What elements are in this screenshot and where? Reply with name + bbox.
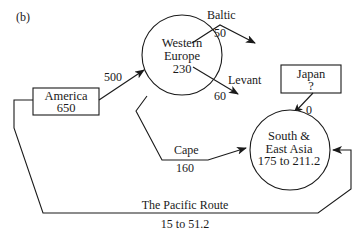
japan-node: Japan ?	[281, 65, 341, 93]
flow-pacific-name: The Pacific Route	[142, 198, 229, 212]
flow-baltic-value: 50	[214, 26, 226, 40]
south-east-asia-node: South & East Asia 175 to 211.2	[250, 110, 330, 190]
asia-name-1: South &	[268, 129, 310, 143]
flow-baltic-name: Baltic	[207, 8, 236, 22]
western-europe-value: 230	[173, 62, 192, 76]
flow-pacific-value: 15 to 51.2	[161, 217, 209, 231]
silver-flow-diagram: (b) America 650 500 Western Europe 230 B…	[0, 0, 361, 234]
western-europe-node: Western Europe 230	[142, 15, 222, 95]
america-node: America 650	[33, 88, 99, 115]
flow-cape-value: 160	[176, 161, 194, 175]
asia-value: 175 to 211.2	[258, 154, 320, 168]
western-europe-name-1: Western	[162, 36, 203, 50]
flow-america-europe-value: 500	[104, 70, 122, 84]
flow-cape-name: Cape	[174, 143, 199, 157]
japan-value: ?	[308, 79, 314, 93]
western-europe-name-2: Europe	[164, 49, 201, 63]
america-value: 650	[57, 101, 76, 115]
flow-levant-name: Levant	[228, 73, 262, 87]
flow-levant-value: 60	[214, 89, 226, 103]
flow-cape: Cape 160	[136, 96, 246, 175]
flow-america-europe: 500	[99, 70, 144, 100]
panel-label: (b)	[16, 10, 30, 24]
